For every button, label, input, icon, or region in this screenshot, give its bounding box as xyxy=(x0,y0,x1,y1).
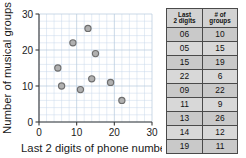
table-row: 1412 xyxy=(167,126,238,140)
table-row: 226 xyxy=(167,70,238,84)
data-point xyxy=(59,83,65,89)
x-tick-label: 0 xyxy=(36,127,42,138)
cell-last-2-digits: 14 xyxy=(167,126,203,140)
x-axis-ticks: 0102030 xyxy=(36,122,158,138)
x-axis-title: Last 2 digits of phone number xyxy=(21,142,162,154)
cell-last-2-digits: 05 xyxy=(167,42,203,56)
scatter-plot-figure: 0102030 0102030 Last 2 digits of phone n… xyxy=(0,0,162,158)
table-row: 1519 xyxy=(167,56,238,70)
column-header-number-of-groups-line2: groups xyxy=(203,18,237,24)
data-point xyxy=(119,97,125,103)
scatter-plot-svg: 0102030 0102030 Last 2 digits of phone n… xyxy=(0,0,162,158)
data-table: Last 2 digits # of groups 06100515151922… xyxy=(166,8,238,154)
y-tick-label: 20 xyxy=(22,45,34,56)
data-point xyxy=(89,76,95,82)
y-tick-label: 30 xyxy=(22,9,34,20)
x-tick-label: 30 xyxy=(146,127,158,138)
x-tick-label: 10 xyxy=(71,127,83,138)
x-tick-label: 20 xyxy=(109,127,121,138)
data-point xyxy=(70,40,76,46)
column-header-last-2-digits: Last 2 digits xyxy=(167,9,203,28)
cell-number-of-groups: 9 xyxy=(203,98,238,112)
column-header-last-2-digits-line2: 2 digits xyxy=(167,18,202,24)
data-point xyxy=(85,25,91,31)
data-table-container: Last 2 digits # of groups 06100515151922… xyxy=(166,8,238,154)
cell-last-2-digits: 11 xyxy=(167,98,203,112)
y-tick-label: 0 xyxy=(27,117,33,128)
cell-last-2-digits: 06 xyxy=(167,28,203,42)
table-row: 1326 xyxy=(167,112,238,126)
table-row: 0515 xyxy=(167,42,238,56)
y-axis-ticks: 0102030 xyxy=(22,9,39,128)
table-row: 1911 xyxy=(167,140,238,154)
cell-number-of-groups: 12 xyxy=(203,126,238,140)
table-header: Last 2 digits # of groups xyxy=(167,9,238,28)
cell-last-2-digits: 19 xyxy=(167,140,203,154)
cell-number-of-groups: 15 xyxy=(203,42,238,56)
table-header-row: Last 2 digits # of groups xyxy=(167,9,238,28)
cell-last-2-digits: 13 xyxy=(167,112,203,126)
cell-number-of-groups: 19 xyxy=(203,56,238,70)
cell-number-of-groups: 26 xyxy=(203,112,238,126)
y-tick-label: 10 xyxy=(22,81,34,92)
cell-last-2-digits: 22 xyxy=(167,70,203,84)
data-point xyxy=(92,51,98,57)
table-row: 0610 xyxy=(167,28,238,42)
cell-number-of-groups: 22 xyxy=(203,84,238,98)
data-point xyxy=(107,79,113,85)
cell-last-2-digits: 09 xyxy=(167,84,203,98)
figure-root: 0102030 0102030 Last 2 digits of phone n… xyxy=(0,0,246,158)
data-point xyxy=(55,65,61,71)
cell-number-of-groups: 10 xyxy=(203,28,238,42)
table-body: 0610051515192260922119132614121911 xyxy=(167,28,238,154)
cell-last-2-digits: 15 xyxy=(167,56,203,70)
cell-number-of-groups: 11 xyxy=(203,140,238,154)
table-row: 0922 xyxy=(167,84,238,98)
y-axis-title: Number of musical groups xyxy=(1,2,13,134)
column-header-number-of-groups: # of groups xyxy=(203,9,238,28)
cell-number-of-groups: 6 xyxy=(203,70,238,84)
data-point xyxy=(77,87,83,93)
table-row: 119 xyxy=(167,98,238,112)
